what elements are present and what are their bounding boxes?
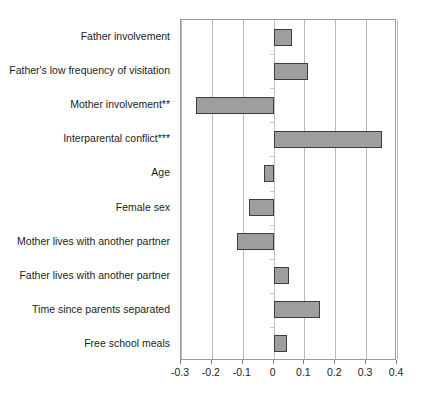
gridline-neg0-1 <box>243 20 244 359</box>
gridline-neg0-2 <box>212 20 213 359</box>
minor-tick <box>270 54 274 55</box>
bar <box>274 63 308 80</box>
x-tick <box>273 360 274 364</box>
minor-tick <box>270 225 274 226</box>
gridline-neg0-3 <box>181 20 182 359</box>
x-tick <box>396 360 397 364</box>
minor-tick <box>270 88 274 89</box>
category-axis-labels: Father involvementFather's low frequency… <box>0 19 175 360</box>
minor-tick <box>270 259 274 260</box>
category-label: Father's low frequency of visitation <box>0 64 170 76</box>
category-label: Mother lives with another partner <box>0 235 170 247</box>
minor-tick <box>270 122 274 123</box>
gridline-0neg4 <box>397 20 398 359</box>
gridline-0neg3 <box>366 20 367 359</box>
minor-tick <box>270 156 274 157</box>
x-axis: -0.3-0.2-0.100.10.20.30.4 <box>180 360 396 390</box>
x-tick-label: -0.3 <box>171 366 189 378</box>
x-tick <box>242 360 243 364</box>
category-label: Interparental conflict*** <box>0 132 170 144</box>
x-tick <box>334 360 335 364</box>
x-tick-label: 0.2 <box>327 366 342 378</box>
category-label: Age <box>0 166 170 178</box>
bar <box>196 97 273 114</box>
x-tick-label: 0.4 <box>389 366 404 378</box>
x-tick <box>211 360 212 364</box>
x-tick-label: 0 <box>270 366 276 378</box>
category-label: Female sex <box>0 201 170 213</box>
category-label: Time since parents separated <box>0 303 170 315</box>
gridline-0neg2 <box>335 20 336 359</box>
bar <box>274 29 293 46</box>
minor-tick <box>270 293 274 294</box>
bar <box>274 131 382 148</box>
x-tick-label: 0.1 <box>296 366 311 378</box>
minor-tick <box>270 191 274 192</box>
bar <box>249 199 274 216</box>
x-tick-label: 0.3 <box>358 366 373 378</box>
bar <box>274 267 289 284</box>
bar <box>237 233 274 250</box>
bar <box>264 165 273 182</box>
bar <box>274 301 320 318</box>
x-tick-label: -0.1 <box>233 366 251 378</box>
x-tick <box>365 360 366 364</box>
x-tick <box>180 360 181 364</box>
x-tick-label: -0.2 <box>202 366 220 378</box>
category-label: Mother involvement** <box>0 98 170 110</box>
category-label: Father lives with another partner <box>0 269 170 281</box>
plot-area <box>180 19 396 360</box>
category-label: Father involvement <box>0 30 170 42</box>
minor-tick <box>270 327 274 328</box>
horizontal-bar-chart: Father involvementFather's low frequency… <box>0 0 423 407</box>
bar <box>274 335 288 352</box>
x-tick <box>303 360 304 364</box>
category-label: Free school meals <box>0 337 170 349</box>
